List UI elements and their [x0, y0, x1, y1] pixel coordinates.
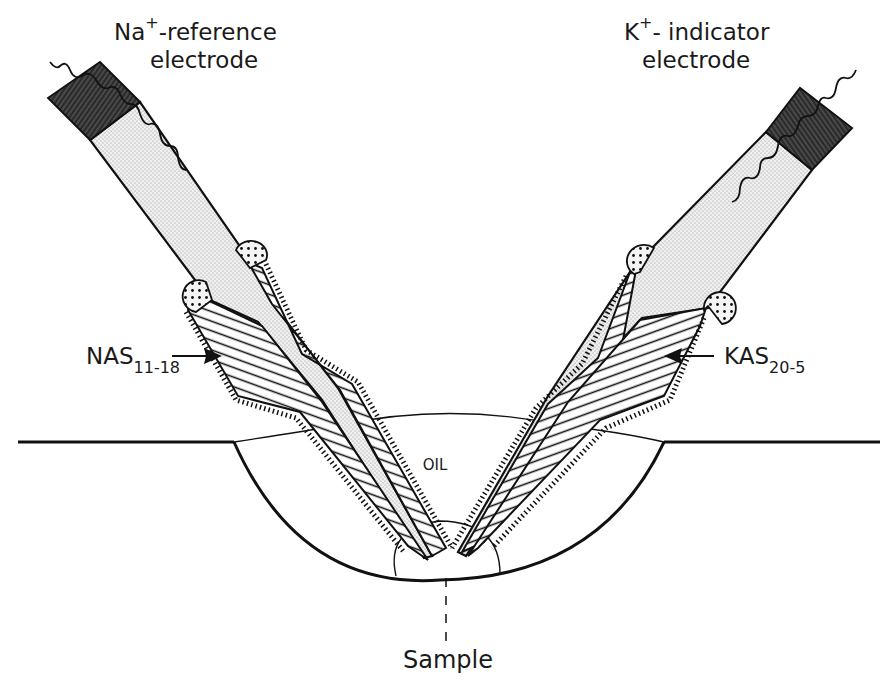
svg-text:NAS11-18: NAS11-18 [86, 343, 180, 377]
na-line1-rest: -reference [159, 19, 277, 45]
right-electrode-line2: electrode [642, 47, 750, 73]
oil-label: OIL [423, 456, 448, 474]
sample-label: Sample [403, 646, 493, 674]
na-ion: Na [114, 19, 145, 45]
right-electrode-label: K+- indicator electrode [624, 13, 770, 73]
kas-main: KAS [724, 343, 769, 369]
nas-subscript: 11-18 [134, 358, 181, 377]
kas-subscript: 20-5 [769, 358, 805, 377]
k-charge: + [639, 13, 652, 32]
nas-main: NAS [86, 343, 134, 369]
na-charge: + [145, 13, 158, 32]
right-wax-blob-lower [704, 292, 736, 324]
svg-text:K+- indicator: K+- indicator [624, 13, 770, 45]
right-electrode [452, 70, 856, 556]
svg-text:Na+-reference: Na+-reference [114, 13, 277, 45]
left-electrode-label: Na+-reference electrode [114, 13, 277, 73]
oil-chamber: OIL [18, 414, 880, 581]
left-electrode-line2: electrode [150, 47, 258, 73]
electrode-diagram: OIL Sample [0, 0, 894, 689]
chamber-bowl [234, 442, 664, 581]
svg-text:KAS20-5: KAS20-5 [724, 343, 805, 377]
diagram-canvas: OIL Sample [0, 0, 894, 689]
k-line1-rest: - indicator [653, 19, 770, 45]
nas-label: NAS11-18 [86, 343, 180, 377]
left-electrode [48, 62, 452, 560]
kas-label: KAS20-5 [724, 343, 805, 377]
left-glass-taper [188, 292, 428, 560]
k-ion: K [624, 19, 640, 45]
